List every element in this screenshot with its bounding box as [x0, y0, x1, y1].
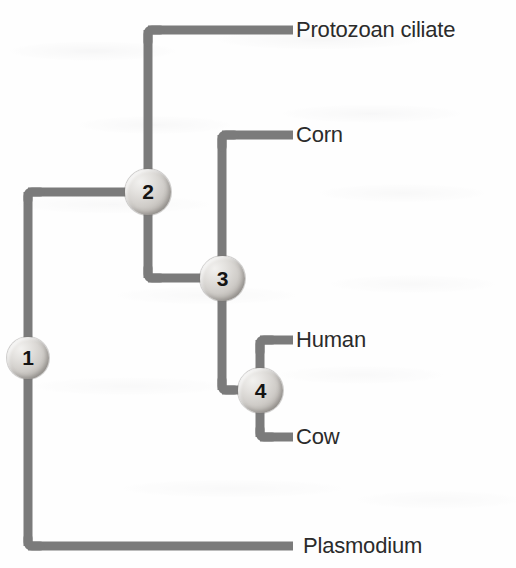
tree-node-2[interactable]: 2 [125, 169, 171, 215]
elbow-node4-top [260, 340, 272, 352]
elbow-node1-bottom [28, 538, 40, 546]
elbow-node3-top [222, 135, 234, 147]
elbow-node2-top [148, 30, 160, 42]
taxon-label-protozoan-ciliate: Protozoan ciliate [296, 19, 455, 41]
phylogenetic-tree-figure: 1 2 3 4 Protozoan ciliate Corn Human Cow… [0, 0, 516, 568]
tree-node-1-number: 1 [7, 346, 49, 370]
elbow-node3-bottom [222, 380, 234, 390]
tree-node-3-number: 3 [200, 266, 245, 290]
taxon-label-plasmodium: Plasmodium [303, 535, 422, 557]
taxon-label-cow: Cow [296, 426, 339, 448]
taxon-label-human: Human [296, 329, 366, 351]
taxon-label-corn: Corn [296, 124, 343, 146]
tree-node-3[interactable]: 3 [200, 256, 245, 301]
elbow-node2-bottom [148, 268, 160, 278]
tree-node-4[interactable]: 4 [238, 368, 283, 413]
elbow-node1-top [28, 192, 40, 200]
elbow-node4-bottom [260, 429, 272, 437]
tree-branches-svg [0, 0, 516, 568]
tree-node-1[interactable]: 1 [7, 337, 49, 379]
tree-node-4-number: 4 [238, 378, 283, 402]
tree-node-2-number: 2 [125, 180, 171, 204]
